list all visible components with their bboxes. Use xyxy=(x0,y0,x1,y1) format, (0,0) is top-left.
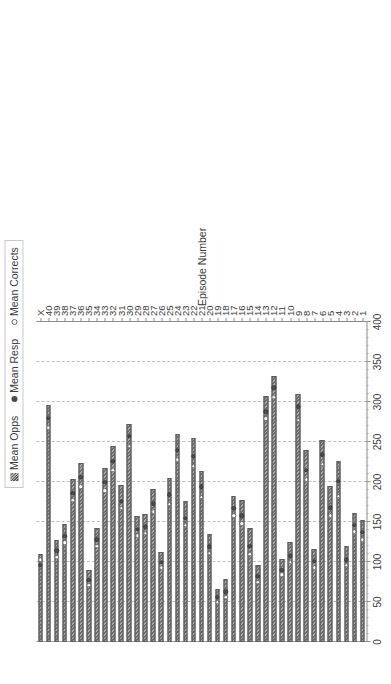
marker-mean-corrects xyxy=(303,477,307,481)
marker-mean-resp xyxy=(102,480,106,484)
value-minor-tick xyxy=(366,369,368,370)
bar-row xyxy=(158,322,163,642)
value-tick-label: 400 xyxy=(371,314,382,331)
category-tick xyxy=(137,319,138,323)
bar-mean-opps xyxy=(191,438,196,642)
value-tick xyxy=(366,401,370,402)
value-tick xyxy=(366,561,370,562)
marker-mean-resp xyxy=(62,534,66,538)
category-tick xyxy=(217,319,218,323)
marker-mean-resp xyxy=(239,513,243,517)
value-tick xyxy=(366,521,370,522)
value-tick xyxy=(366,641,370,642)
category-tick xyxy=(177,319,178,323)
value-minor-tick xyxy=(366,617,368,618)
value-tick-label: 200 xyxy=(371,474,382,491)
marker-mean-resp xyxy=(360,530,364,534)
category-tick xyxy=(265,319,266,323)
bar-mean-opps xyxy=(336,461,341,642)
marker-mean-resp xyxy=(328,505,332,509)
value-minor-tick xyxy=(366,473,368,474)
marker-mean-resp xyxy=(263,409,267,413)
value-minor-tick xyxy=(366,553,368,554)
value-minor-tick xyxy=(366,577,368,578)
value-tick-label: 0 xyxy=(371,639,382,645)
bar-row xyxy=(327,322,332,642)
marker-mean-resp xyxy=(311,559,315,563)
marker-mean-resp xyxy=(287,553,291,557)
bar-row xyxy=(62,322,67,642)
category-tick xyxy=(338,319,339,323)
marker-mean-corrects xyxy=(86,583,90,587)
value-minor-tick xyxy=(366,465,368,466)
value-tick-label: 150 xyxy=(371,514,382,531)
category-tick xyxy=(362,319,363,323)
value-minor-tick xyxy=(366,457,368,458)
marker-mean-resp xyxy=(199,485,203,489)
marker-mean-resp xyxy=(142,525,146,529)
value-minor-tick xyxy=(366,489,368,490)
category-tick xyxy=(233,319,234,323)
bar-row xyxy=(54,322,59,642)
marker-mean-resp xyxy=(167,493,171,497)
value-minor-tick xyxy=(366,545,368,546)
marker-mean-corrects xyxy=(320,462,324,466)
marker-mean-resp xyxy=(295,405,299,409)
marker-mean-corrects xyxy=(344,563,348,567)
category-tick xyxy=(129,319,130,323)
marker-mean-corrects xyxy=(279,573,283,577)
marker-mean-corrects xyxy=(46,425,50,429)
bar-mean-opps xyxy=(319,440,324,642)
value-minor-tick xyxy=(366,513,368,514)
bar-row xyxy=(279,322,284,642)
chart-legend: Mean Opps Mean Resp Mean Corrects xyxy=(4,240,23,488)
bar-row xyxy=(126,322,131,642)
bar-row xyxy=(239,322,244,642)
marker-mean-corrects xyxy=(94,544,98,548)
bar-row xyxy=(215,322,220,642)
value-minor-tick xyxy=(366,529,368,530)
marker-mean-corrects xyxy=(70,498,74,502)
category-tick xyxy=(314,319,315,323)
marker-mean-resp xyxy=(336,479,340,483)
value-tick xyxy=(366,321,370,322)
category-tick xyxy=(96,319,97,323)
marker-mean-resp xyxy=(86,578,90,582)
marker-mean-resp xyxy=(134,527,138,531)
marker-mean-resp xyxy=(94,537,98,541)
value-minor-tick xyxy=(366,537,368,538)
value-minor-tick xyxy=(366,433,368,434)
bar-mean-opps xyxy=(126,424,131,642)
marker-mean-corrects xyxy=(231,513,235,517)
value-minor-tick xyxy=(366,337,368,338)
bar-row xyxy=(167,322,172,642)
bar-mean-opps xyxy=(46,405,51,642)
bar-row xyxy=(183,322,188,642)
marker-mean-resp xyxy=(223,589,227,593)
value-minor-tick xyxy=(366,345,368,346)
marker-mean-resp xyxy=(151,501,155,505)
marker-mean-resp xyxy=(54,549,58,553)
marker-mean-resp xyxy=(247,544,251,548)
legend-item-mean-opps: Mean Opps xyxy=(7,416,20,481)
value-minor-tick xyxy=(366,593,368,594)
marker-mean-corrects xyxy=(255,580,259,584)
category-tick xyxy=(281,319,282,323)
bar-chart-figure: Mean Opps Mean Resp Mean Corrects 050100… xyxy=(0,0,391,684)
category-tick xyxy=(104,319,105,323)
bar-row xyxy=(110,322,115,642)
category-tick xyxy=(330,319,331,323)
category-tick xyxy=(121,319,122,323)
marker-mean-resp xyxy=(303,468,307,472)
bar-row xyxy=(360,322,365,642)
value-tick-label: 350 xyxy=(371,354,382,371)
marker-mean-corrects xyxy=(328,513,332,517)
marker-mean-resp xyxy=(215,595,219,599)
category-tick xyxy=(193,319,194,323)
filled-dot-icon xyxy=(11,396,17,402)
marker-mean-corrects xyxy=(118,506,122,510)
value-axis: 050100150200250300350400 xyxy=(366,322,390,642)
bar-swatch-icon xyxy=(10,473,18,481)
marker-mean-resp xyxy=(159,560,163,564)
legend-label-mean-corrects: Mean Corrects xyxy=(7,247,20,316)
